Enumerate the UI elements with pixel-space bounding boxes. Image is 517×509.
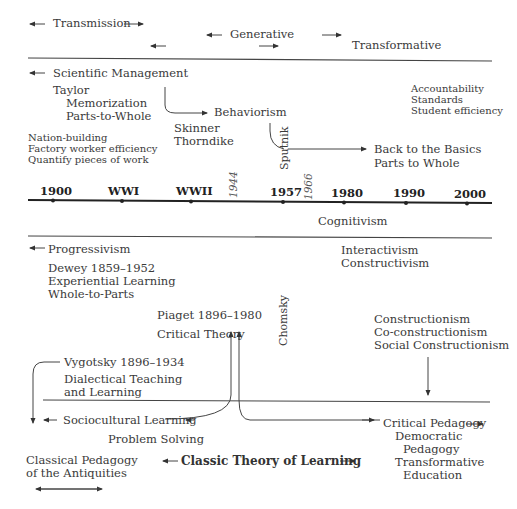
vygotsky-label: Vygotsky 1896–1934 <box>64 356 185 369</box>
thorndike-label: Thorndike <box>174 135 234 148</box>
quantify-work-label: Quantify pieces of work <box>28 154 148 165</box>
learning-theory-timeline-diagram: Transmission Generative Transformative S… <box>0 0 517 509</box>
sputnik-label: Sputnik <box>278 127 291 170</box>
scientific-management-label: Scientific Management <box>53 67 188 80</box>
whole-to-parts-label: Whole-to-Parts <box>48 288 134 301</box>
social-constructionism-label: Social Constructionism <box>374 339 509 352</box>
timeline-marker-2000: 2000 <box>454 188 486 201</box>
education-label: Education <box>403 469 462 482</box>
timeline-marker-1980: 1980 <box>331 187 363 200</box>
and-learning-label: and Learning <box>64 386 142 399</box>
accountability-label: Accountability <box>411 83 484 94</box>
era-transformative: Transformative <box>352 39 441 52</box>
timeline-marker-wwii: WWII <box>176 185 213 198</box>
antiquities-label: of the Antiquities <box>26 467 127 480</box>
parts-to-whole-label: Parts-to-Whole <box>66 110 151 123</box>
timeline-marker-wwi: WWI <box>108 185 139 198</box>
era-generative: Generative <box>230 28 294 41</box>
parts-to-whole-2-label: Parts to Whole <box>374 157 460 170</box>
back-to-basics-label: Back to the Basics <box>374 143 481 156</box>
chomsky-label: Chomsky <box>277 295 290 346</box>
piaget-label: Piaget 1896–1980 <box>157 309 262 322</box>
standards-label: Standards <box>411 94 463 105</box>
timeline-marker-1990: 1990 <box>393 187 425 200</box>
timeline-year-1944: 1944 <box>227 171 240 198</box>
behaviorism-label: Behaviorism <box>214 106 287 119</box>
constructivism-label: Constructivism <box>341 257 429 270</box>
sociocultural-learning-label: Sociocultural Learning <box>63 414 197 427</box>
factory-efficiency-label: Factory worker efficiency <box>28 143 157 154</box>
era-transmission: Transmission <box>53 17 131 30</box>
cognitivism-label: Cognitivism <box>318 215 387 228</box>
student-efficiency-label: Student efficiency <box>411 105 503 116</box>
critical-theory-label: Critical Theory <box>157 328 245 341</box>
classic-theory-label: Classic Theory of Learning <box>181 455 361 468</box>
timeline-marker-1957: 1957 <box>270 186 302 199</box>
timeline-marker-1900: 1900 <box>40 185 72 198</box>
timeline-year-1966: 1966 <box>302 173 315 200</box>
progressivism-label: Progressivism <box>48 243 130 256</box>
nation-building-label: Nation-building <box>28 132 107 143</box>
problem-solving-label: Problem Solving <box>108 433 204 446</box>
